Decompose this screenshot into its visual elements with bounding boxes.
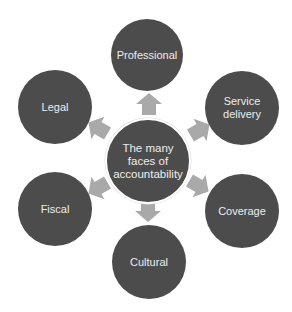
node-fiscal: Fiscal [18,172,92,246]
node-service-delivery-label: Service delivery [223,95,261,121]
center-node-accountability: The many faces of accountability [105,118,191,204]
node-fiscal-label: Fiscal [41,203,70,216]
arrow-to-professional-icon [136,93,162,115]
node-professional-label: Professional [117,49,178,62]
node-professional: Professional [111,19,183,91]
node-service-delivery: Service delivery [205,71,279,145]
node-coverage: Coverage [205,174,279,248]
node-coverage-label: Coverage [218,205,266,218]
center-node-label: The many faces of accountability [113,142,183,181]
node-legal: Legal [18,70,92,144]
node-legal-label: Legal [42,101,69,114]
accountability-diagram: The many faces of accountability Profess… [0,0,292,312]
node-cultural: Cultural [112,225,186,299]
node-cultural-label: Cultural [130,256,168,269]
